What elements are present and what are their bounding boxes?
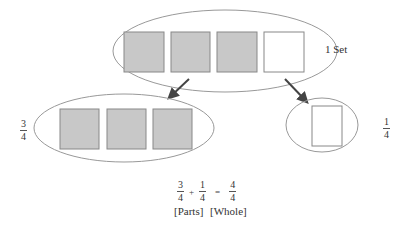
shaded-square-1 xyxy=(124,32,164,72)
caption: [Parts] [Whole] xyxy=(174,205,247,217)
remaining-square xyxy=(312,106,342,146)
equals-sign: = xyxy=(215,187,220,197)
set-label: 1 Set xyxy=(325,43,347,55)
parts-square-3 xyxy=(153,109,192,149)
plus-sign: + xyxy=(189,187,194,197)
equation-term-1: 3 4 xyxy=(177,180,184,203)
caption-parts: [Parts] xyxy=(174,205,203,217)
equation: 3 4 + 1 4 = 4 4 xyxy=(177,180,236,203)
left-fraction: 3 4 xyxy=(20,119,27,142)
result-denominator: 4 xyxy=(230,192,235,203)
term2-numerator: 1 xyxy=(199,180,206,192)
right-fraction: 1 4 xyxy=(383,117,390,140)
left-fraction-denominator: 4 xyxy=(21,131,26,142)
result-numerator: 4 xyxy=(229,180,236,192)
equation-result: 4 4 xyxy=(229,180,236,203)
left-fraction-numerator: 3 xyxy=(20,119,27,131)
caption-whole: [Whole] xyxy=(210,205,247,217)
term1-denominator: 4 xyxy=(178,192,183,203)
term2-denominator: 4 xyxy=(200,192,205,203)
shaded-square-2 xyxy=(171,32,210,72)
unshaded-square xyxy=(264,32,304,72)
shaded-square-3 xyxy=(217,32,257,72)
right-fraction-denominator: 4 xyxy=(384,129,389,140)
right-fraction-numerator: 1 xyxy=(383,117,390,129)
equation-term-2: 1 4 xyxy=(199,180,206,203)
term1-numerator: 3 xyxy=(177,180,184,192)
arrow-to-remaining xyxy=(285,79,306,101)
arrow-to-parts xyxy=(170,79,189,97)
parts-square-2 xyxy=(107,109,146,149)
parts-square-1 xyxy=(60,109,99,149)
